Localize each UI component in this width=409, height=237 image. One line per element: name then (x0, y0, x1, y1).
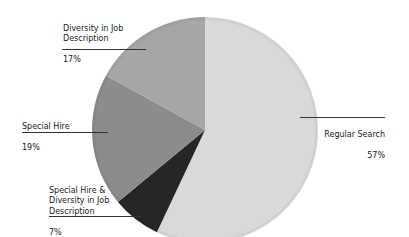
label-regular-search: Regular Search 57% (300, 119, 385, 161)
label-diversity-pct: 17% (63, 55, 81, 64)
label-special-hire-text: Special Hire (22, 122, 70, 131)
leader-line-diversity (62, 49, 146, 50)
label-regular-text: Regular Search (324, 130, 385, 139)
label-shd-pct: 7% (49, 228, 62, 237)
label-regular-pct: 57% (367, 151, 385, 160)
label-shd-text: Special Hire & Diversity in Job Descript… (49, 186, 109, 216)
leader-line-special-hire-diversity (49, 216, 141, 217)
pie-chart: Diversity in Job Description 17% Special… (0, 0, 409, 237)
label-special-hire-pct: 19% (22, 143, 40, 152)
leader-line-special-hire (22, 132, 108, 133)
label-diversity: Diversity in Job Description 17% (63, 13, 123, 66)
label-diversity-text: Diversity in Job Description (63, 24, 123, 44)
label-special-hire-diversity: Special Hire & Diversity in Job Descript… (49, 175, 109, 237)
leader-line-regular-search (300, 117, 385, 118)
